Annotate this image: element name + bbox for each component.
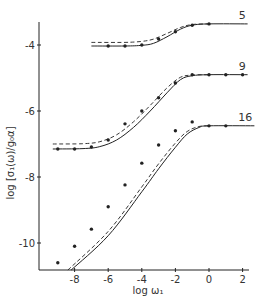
data-point	[174, 129, 177, 132]
y-tick-label: -8	[25, 172, 35, 183]
y-tick-label: -6	[25, 106, 35, 117]
data-point	[157, 96, 160, 99]
data-point	[224, 73, 227, 76]
y-tick-label: -4	[25, 40, 35, 51]
data-point	[90, 145, 93, 148]
x-tick-label: 0	[206, 274, 212, 285]
data-point	[73, 147, 76, 150]
x-tick-label: -4	[137, 274, 147, 285]
data-point	[207, 124, 210, 127]
x-tick-label: -2	[170, 274, 180, 285]
data-point	[56, 147, 59, 150]
data-point	[140, 43, 143, 46]
curve-label-9: 9	[239, 60, 246, 73]
y-axis-title: log [σ₁(ω)/g₀α]	[5, 126, 16, 199]
solid-curve-9	[53, 75, 248, 149]
x-tick-label: -6	[103, 274, 113, 285]
x-axis-title: log ω₁	[133, 285, 164, 296]
fit-curves	[53, 24, 255, 270]
data-point	[123, 183, 126, 186]
curve-labels: 5916	[238, 9, 252, 124]
curve-label-16: 16	[238, 111, 252, 124]
dashed-curve-16	[68, 126, 209, 270]
data-point	[157, 143, 160, 146]
data-point	[73, 245, 76, 248]
data-point	[140, 161, 143, 164]
data-point	[107, 44, 110, 47]
data-point	[107, 138, 110, 141]
chart: -8-6-4-202-4-6-8-10 5916 log ω₁ log [σ₁(…	[0, 0, 263, 307]
data-point	[174, 81, 177, 84]
data-point	[191, 120, 194, 123]
data-point	[224, 124, 227, 127]
data-point	[140, 109, 143, 112]
data-point	[174, 30, 177, 33]
data-point	[157, 37, 160, 40]
dashed-curve-5	[91, 24, 209, 43]
data-point	[56, 261, 59, 264]
data-point	[107, 205, 110, 208]
data-point	[207, 22, 210, 25]
data-point	[191, 24, 194, 27]
data-point	[123, 122, 126, 125]
x-tick-label: -8	[70, 274, 80, 285]
data-point	[207, 73, 210, 76]
data-point	[241, 73, 244, 76]
x-tick-label: 2	[239, 274, 245, 285]
data-point	[191, 73, 194, 76]
axes: -8-6-4-202-4-6-8-10	[19, 22, 249, 285]
curve-label-5: 5	[239, 9, 246, 22]
data-point	[123, 44, 126, 47]
dashed-curve-9	[53, 75, 209, 144]
data-point	[90, 227, 93, 230]
y-tick-label: -10	[19, 238, 35, 249]
data-points	[56, 22, 244, 264]
